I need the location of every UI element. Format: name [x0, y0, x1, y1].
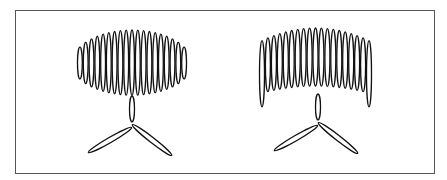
left-coil-figure	[78, 30, 187, 157]
right-coil-figure	[260, 28, 372, 155]
diagram-canvas	[0, 0, 447, 180]
